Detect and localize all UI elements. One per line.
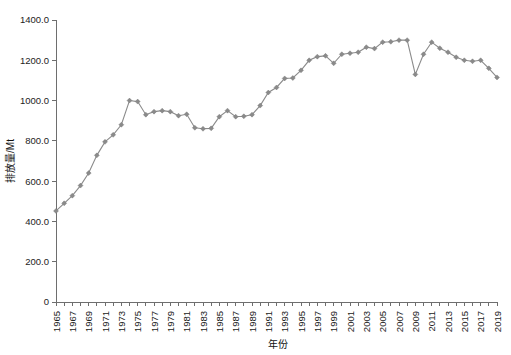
x-tick-label: 1969 [83,311,94,332]
x-tick-label: 1983 [198,311,209,332]
data-point-marker [397,38,402,43]
data-point-marker [356,50,361,55]
x-tick-label: 2017 [475,311,486,332]
x-tick-label: 1967 [67,311,78,332]
x-tick-label: 1977 [149,311,160,332]
x-tick-label: 1965 [51,311,62,332]
y-tick-label: 800.0 [25,135,49,146]
y-tick-label: 200.0 [25,256,49,267]
y-tick-label: 1200.0 [20,55,49,66]
data-point-marker [152,109,157,114]
y-tick-label: 0 [44,296,49,307]
x-tick-label: 1991 [263,311,274,332]
data-point-marker [168,109,173,114]
x-tick-label: 2005 [377,311,388,332]
data-point-marker [94,153,99,158]
x-tick-label: 1995 [296,311,307,332]
y-axis-title: 排放量/Mt [4,139,16,183]
x-tick-label: 1975 [132,311,143,332]
data-point-marker [388,39,393,44]
line-chart: 0200.0400.0600.0800.01000.01200.01400.01… [0,0,511,355]
y-tick-label: 1400.0 [20,14,49,25]
data-point-marker [413,72,418,77]
data-point-marker [176,113,181,118]
data-point-marker [135,99,140,104]
y-tick-label: 400.0 [25,216,49,227]
data-point-marker [348,51,353,56]
x-tick-label: 2013 [443,311,454,332]
y-tick-label: 600.0 [25,176,49,187]
x-axis-title: 年份 [268,338,288,350]
data-point-marker [201,126,206,131]
data-point-marker [127,98,132,103]
data-point-marker [462,58,467,63]
x-tick-label: 1999 [328,311,339,332]
x-tick-label: 1987 [230,311,241,332]
data-point-marker [315,54,320,59]
data-point-marker [143,112,148,117]
x-tick-label: 1981 [181,311,192,332]
data-point-marker [405,38,410,43]
x-tick-label: 1997 [312,311,323,332]
data-point-marker [192,125,197,130]
x-tick-label: 2003 [361,311,372,332]
x-tick-label: 2001 [345,311,356,332]
x-tick-label: 2007 [394,311,405,332]
x-tick-label: 1973 [116,311,127,332]
data-point-marker [266,90,271,95]
x-tick-label: 2019 [492,311,503,332]
x-tick-label: 1989 [247,311,258,332]
x-tick-label: 1985 [214,311,225,332]
x-tick-label: 1971 [100,311,111,332]
data-point-marker [184,112,189,117]
x-tick-label: 2011 [426,311,437,331]
chart-container: 0200.0400.0600.0800.01000.01200.01400.01… [0,0,511,355]
data-point-marker [241,114,246,119]
x-tick-label: 2015 [459,311,470,332]
data-point-marker [454,55,459,60]
x-tick-label: 1979 [165,311,176,332]
data-point-marker [160,108,165,113]
data-point-marker [470,59,475,64]
data-point-marker [446,50,451,55]
x-tick-label: 2009 [410,311,421,332]
y-tick-label: 1000.0 [20,95,49,106]
x-tick-label: 1993 [279,311,290,332]
data-point-marker [364,45,369,50]
